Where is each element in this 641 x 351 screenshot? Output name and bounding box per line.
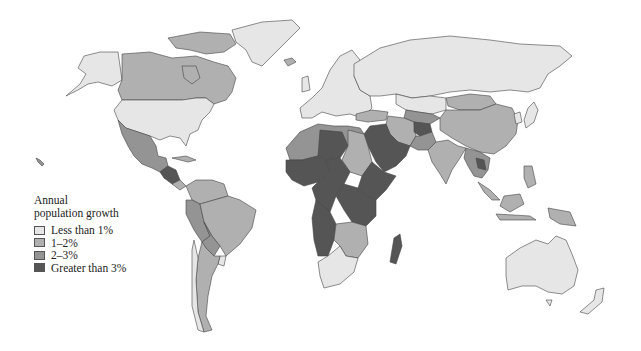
swatch-greater-than-3 bbox=[34, 263, 45, 272]
region-hawaii bbox=[36, 158, 44, 166]
region-canada bbox=[118, 52, 236, 104]
legend-label: Greater than 3% bbox=[51, 262, 126, 274]
region-kazakhstan bbox=[396, 94, 446, 114]
region-australia bbox=[506, 236, 578, 294]
swatch-2-3 bbox=[34, 251, 45, 260]
region-malaysia-indonesia bbox=[478, 182, 536, 220]
legend-title-line1: Annual bbox=[34, 194, 126, 207]
legend-label: 2–3% bbox=[51, 249, 78, 261]
legend-item-less-than-1: Less than 1% bbox=[34, 224, 126, 237]
swatch-less-than-1 bbox=[34, 226, 45, 235]
region-india bbox=[428, 140, 466, 184]
region-new-zealand bbox=[580, 288, 604, 314]
legend-label: Less than 1% bbox=[51, 224, 113, 236]
region-tasmania bbox=[546, 300, 552, 306]
swatch-1-2 bbox=[34, 238, 45, 247]
region-png bbox=[548, 208, 576, 226]
region-russia bbox=[354, 36, 572, 98]
legend-item-1-2: 1–2% bbox=[34, 237, 126, 250]
region-alaska bbox=[66, 52, 122, 96]
legend-title: Annual population growth bbox=[34, 194, 126, 220]
region-madagascar bbox=[390, 234, 402, 264]
region-philippines bbox=[524, 166, 536, 188]
region-angola bbox=[312, 200, 336, 256]
legend-title-line2: population growth bbox=[34, 207, 126, 220]
region-canada-islands bbox=[168, 32, 236, 54]
map-legend: Annual population growth Less than 1% 1–… bbox=[34, 194, 126, 274]
region-japan bbox=[524, 102, 538, 128]
region-uk bbox=[302, 76, 310, 92]
region-caribbean bbox=[172, 156, 196, 162]
legend-item-2-3: 2–3% bbox=[34, 249, 126, 262]
legend-item-greater-than-3: Greater than 3% bbox=[34, 262, 126, 275]
region-iceland bbox=[284, 58, 296, 66]
world-map bbox=[0, 0, 641, 351]
legend-label: 1–2% bbox=[51, 237, 78, 249]
